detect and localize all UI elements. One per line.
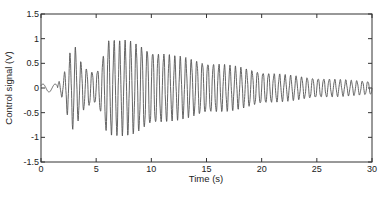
y-tick-label: 0 bbox=[34, 83, 39, 93]
y-tick-label: 0.5 bbox=[26, 58, 39, 68]
axis-ticks: 051015202530-1.5-1-0.500.511.5 bbox=[23, 9, 377, 174]
y-tick-label: -0.5 bbox=[23, 108, 39, 118]
x-tick-label: 30 bbox=[367, 164, 377, 174]
control-signal-line bbox=[41, 40, 372, 136]
y-axis-label: Control signal (V) bbox=[3, 51, 14, 124]
x-axis-label: Time (s) bbox=[189, 173, 223, 184]
x-tick-label: 0 bbox=[38, 164, 43, 174]
x-tick-label: 5 bbox=[94, 164, 99, 174]
x-tick-label: 10 bbox=[146, 164, 156, 174]
x-tick-label: 20 bbox=[257, 164, 267, 174]
y-tick-label: 1 bbox=[34, 34, 39, 44]
chart: 051015202530-1.5-1-0.500.511.5 Time (s) … bbox=[0, 0, 390, 198]
y-tick-label: -1.5 bbox=[23, 157, 39, 167]
x-tick-label: 25 bbox=[312, 164, 322, 174]
y-tick-label: -1 bbox=[31, 132, 39, 142]
y-tick-label: 1.5 bbox=[26, 9, 39, 19]
